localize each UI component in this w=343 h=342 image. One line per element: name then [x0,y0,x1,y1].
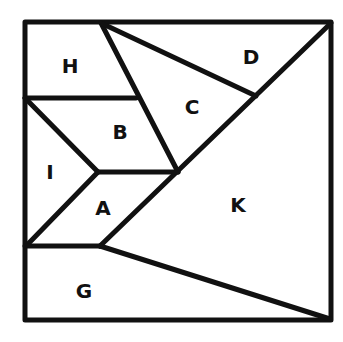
region-label-k: K [230,193,247,217]
region-label-b: B [112,120,127,144]
edge-main-diagonal [100,23,331,246]
edge-i-a [27,172,98,245]
region-label-a: A [95,196,111,220]
puzzle-diagram: H D C B I A K G [0,0,343,342]
region-label-g: G [76,279,92,303]
region-label-d: D [243,45,260,69]
region-label-h: H [62,54,79,78]
edge-i-b [25,98,98,172]
region-label-i: I [46,160,53,184]
edge-g-k [100,246,330,319]
region-label-c: C [185,95,200,119]
edge-c-d [103,24,256,96]
